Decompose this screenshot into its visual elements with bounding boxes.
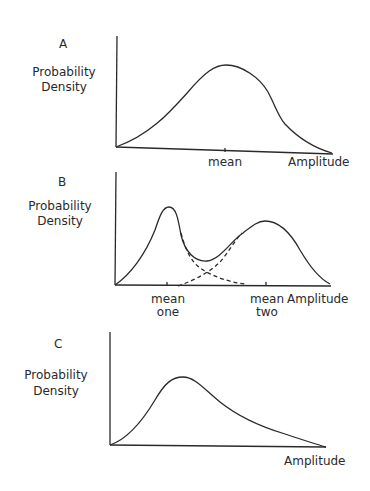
panel-a-mean-label: mean (208, 155, 242, 169)
panel-b-y-axis (115, 172, 116, 285)
panel-a-plot (116, 36, 333, 154)
panel-b-component-two-dashed (178, 233, 242, 286)
panel-a-ylabel-line2: Density (14, 80, 114, 94)
panel-c-xlabel: Amplitude (284, 454, 346, 468)
panel-c-x-axis (110, 445, 326, 447)
panel-b-component-one-dashed (181, 233, 245, 284)
panel-b-mean-two-line1: mean (245, 292, 289, 306)
panel-c-curve (110, 377, 326, 447)
panel-c-plot (110, 332, 326, 447)
panel-b-mean-one-line2: one (146, 305, 190, 319)
panel-b-xlabel: Amplitude (287, 292, 349, 306)
panel-b-x-axis (115, 285, 331, 286)
panel-c-letter: C (54, 337, 62, 351)
panel-a-letter: A (59, 37, 67, 51)
panel-a-curve (116, 65, 332, 153)
panel-a-ylabel-line1: Probability (14, 65, 114, 79)
panel-c-ylabel-line1: Probability (6, 368, 106, 382)
panel-a-xlabel: Amplitude (288, 155, 350, 169)
panel-b-ylabel-line2: Density (10, 214, 110, 228)
panel-b-letter: B (58, 175, 66, 189)
panel-b-mean-one-line1: mean (146, 292, 190, 306)
panel-a-y-axis (116, 36, 117, 147)
panel-b-mean-two-line2: two (245, 305, 289, 319)
panel-b-combined-curve (115, 207, 330, 285)
panel-c-ylabel-line2: Density (6, 384, 106, 398)
panel-b-ylabel-line1: Probability (10, 199, 110, 213)
panel-b-plot (115, 172, 331, 286)
